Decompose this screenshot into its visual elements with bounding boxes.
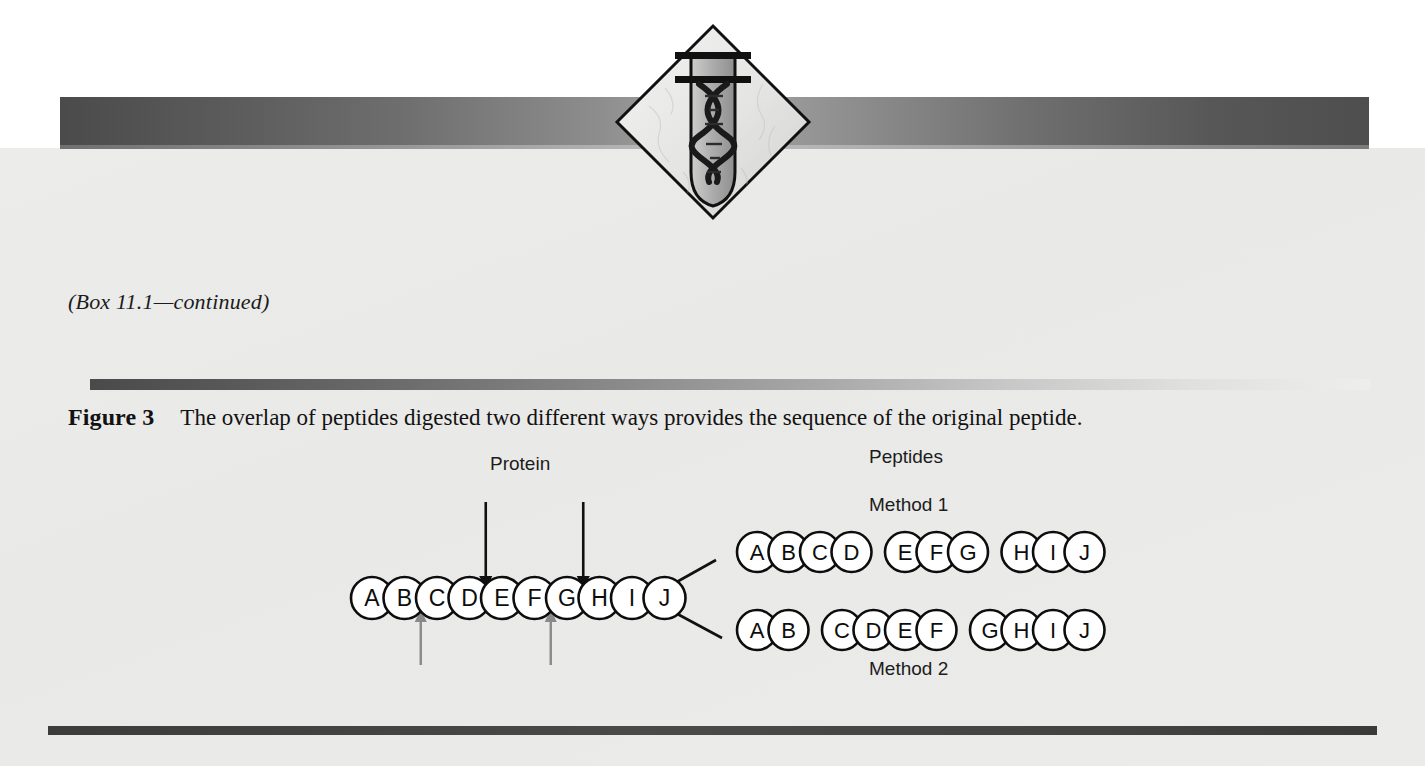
svg-text:C: C bbox=[812, 540, 828, 565]
method2-peptide-3: GHIJ bbox=[970, 610, 1105, 650]
svg-text:D: D bbox=[844, 540, 860, 565]
box-continued-label: (Box 11.1—continued) bbox=[68, 289, 270, 315]
svg-text:F: F bbox=[930, 540, 943, 565]
svg-text:I: I bbox=[1050, 618, 1056, 643]
method1-peptide-3: HIJ bbox=[1002, 532, 1105, 572]
svg-text:E: E bbox=[898, 540, 913, 565]
diagram-label-protein: Protein bbox=[490, 453, 550, 474]
method2-residue-F: F bbox=[917, 610, 957, 650]
method1-residue-D: D bbox=[832, 532, 872, 572]
svg-text:H: H bbox=[1014, 618, 1030, 643]
method2-residue-J: J bbox=[1065, 610, 1105, 650]
figure-caption-text: The overlap of peptides digested two dif… bbox=[180, 405, 1082, 430]
figure-number-label: Figure 3 bbox=[68, 404, 154, 430]
cut-arrow-up-after-B bbox=[415, 609, 427, 665]
svg-text:J: J bbox=[1079, 540, 1090, 565]
page-root: (Box 11.1—continued) Figure 3The overlap… bbox=[0, 0, 1425, 766]
cut-arrow-down-after-G bbox=[577, 502, 590, 590]
svg-text:A: A bbox=[364, 585, 380, 611]
svg-text:D: D bbox=[866, 618, 882, 643]
diamond-dna-test-tube-logo bbox=[613, 22, 813, 222]
svg-text:C: C bbox=[429, 585, 446, 611]
svg-text:J: J bbox=[659, 585, 671, 611]
svg-text:A: A bbox=[750, 540, 765, 565]
svg-text:B: B bbox=[781, 540, 796, 565]
svg-text:F: F bbox=[930, 618, 943, 643]
svg-text:H: H bbox=[1014, 540, 1030, 565]
svg-text:G: G bbox=[981, 618, 998, 643]
svg-text:I: I bbox=[1050, 540, 1056, 565]
svg-text:I: I bbox=[629, 585, 635, 611]
svg-text:F: F bbox=[527, 585, 541, 611]
method2-peptide-1: AB bbox=[737, 610, 809, 650]
svg-text:H: H bbox=[591, 585, 608, 611]
method1-peptide-chain: ABCDEFGHIJ bbox=[737, 532, 1105, 572]
svg-text:J: J bbox=[1079, 618, 1090, 643]
method1-residue-J: J bbox=[1065, 532, 1105, 572]
protein-residue-J: J bbox=[644, 577, 686, 619]
figure-caption: Figure 3The overlap of peptides digested… bbox=[68, 404, 1388, 431]
method2-residue-B: B bbox=[769, 610, 809, 650]
svg-text:C: C bbox=[834, 618, 850, 643]
figure-divider-rule bbox=[90, 379, 1370, 390]
protein-chain: ABCDEFGHIJ bbox=[351, 577, 686, 619]
diagram-label-method2: Method 2 bbox=[869, 658, 948, 679]
svg-text:B: B bbox=[397, 585, 412, 611]
method2-peptide-chain: ABCDEFGHIJ bbox=[737, 610, 1105, 650]
svg-text:D: D bbox=[461, 585, 478, 611]
svg-text:B: B bbox=[781, 618, 796, 643]
svg-text:E: E bbox=[494, 585, 509, 611]
method2-peptide-2: CDEF bbox=[822, 610, 957, 650]
method1-peptide-1: ABCD bbox=[737, 532, 872, 572]
diagram-label-peptides: Peptides bbox=[869, 446, 943, 467]
svg-text:G: G bbox=[959, 540, 976, 565]
diagram-label-method1: Method 1 bbox=[869, 494, 948, 515]
cut-arrow-up-after-F bbox=[545, 609, 557, 665]
method1-peptide-2: EFG bbox=[885, 532, 988, 572]
peptide-overlap-diagram: Protein Peptides Method 1 Method 2 ABCDE… bbox=[0, 430, 1425, 690]
svg-text:A: A bbox=[750, 618, 765, 643]
bottom-divider-rule bbox=[48, 726, 1377, 735]
cut-arrow-down-after-D bbox=[479, 502, 492, 590]
svg-text:G: G bbox=[558, 585, 576, 611]
svg-text:E: E bbox=[898, 618, 913, 643]
method1-residue-G: G bbox=[948, 532, 988, 572]
